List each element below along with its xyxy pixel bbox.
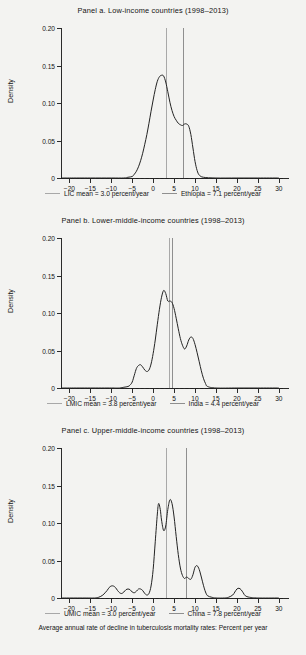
panel-b-y-axis-label: Density (6, 289, 15, 313)
x-tick-mark (174, 389, 175, 393)
x-tick-label: 10 (191, 185, 198, 192)
x-tick-label: −5 (128, 185, 136, 192)
x-tick-label: 5 (172, 185, 176, 192)
x-tick-mark (153, 599, 154, 603)
x-tick-mark (195, 389, 196, 393)
x-tick-mark (258, 389, 259, 393)
y-tick-mark (57, 448, 61, 449)
y-tick-label: 0.05 (42, 557, 55, 564)
x-tick-label: 30 (275, 185, 282, 192)
x-tick-mark (195, 599, 196, 603)
x-tick-mark (279, 599, 280, 603)
x-tick-label: 25 (254, 395, 261, 402)
panel-a: Panel a. Low-income countries (1998–2013… (0, 0, 306, 210)
x-tick-mark (237, 179, 238, 183)
x-tick-label: 15 (212, 395, 219, 402)
y-tick-label: 0 (51, 385, 55, 392)
x-tick-label: −10 (106, 395, 117, 402)
x-tick-label: −10 (106, 185, 117, 192)
y-tick-label: 0.15 (42, 62, 55, 69)
x-tick-mark (279, 179, 280, 183)
x-tick-label: 15 (212, 605, 219, 612)
panel-b-plot-area (61, 238, 283, 388)
y-tick-label: 0.20 (42, 25, 55, 32)
y-tick-mark (57, 238, 61, 239)
density-curve (61, 448, 283, 598)
x-tick-mark (279, 389, 280, 393)
y-tick-label: 0 (51, 595, 55, 602)
y-tick-label: 0.05 (42, 137, 55, 144)
x-tick-mark (69, 179, 70, 183)
legend-swatch-country (170, 403, 185, 404)
x-tick-mark (153, 179, 154, 183)
y-tick-mark (57, 313, 61, 314)
y-tick-label: 0.10 (42, 100, 55, 107)
y-tick-mark (57, 178, 61, 179)
y-tick-mark (57, 103, 61, 104)
x-tick-mark (90, 179, 91, 183)
x-tick-label: 15 (212, 185, 219, 192)
legend-swatch-mean (45, 193, 60, 194)
x-tick-label: −20 (64, 605, 75, 612)
x-tick-label: 5 (172, 605, 176, 612)
x-tick-label: 20 (233, 605, 240, 612)
x-tick-mark (132, 599, 133, 603)
x-tick-label: −20 (64, 185, 75, 192)
panel-a-y-axis-label: Density (6, 79, 15, 103)
legend-item-mean: UMIC mean = 3.0 percent/year (45, 610, 156, 617)
x-tick-label: 10 (191, 605, 198, 612)
y-tick-label: 0.10 (42, 520, 55, 527)
x-tick-mark (111, 179, 112, 183)
panel-b-title: Panel b. Lower-middle-income countries (… (0, 216, 306, 225)
x-tick-label: −5 (128, 395, 136, 402)
x-tick-label: 5 (172, 395, 176, 402)
y-tick-mark (57, 486, 61, 487)
x-tick-mark (111, 599, 112, 603)
legend-swatch-mean (45, 613, 60, 614)
density-curve (61, 238, 283, 388)
x-tick-mark (216, 599, 217, 603)
x-tick-label: 20 (233, 185, 240, 192)
y-tick-mark (57, 66, 61, 67)
x-tick-label: −15 (85, 605, 96, 612)
y-tick-label: 0.20 (42, 445, 55, 452)
x-tick-mark (216, 179, 217, 183)
legend-swatch-mean (47, 403, 62, 404)
y-tick-mark (57, 523, 61, 524)
x-tick-label: −10 (106, 605, 117, 612)
y-tick-mark (57, 598, 61, 599)
y-tick-label: 0 (51, 175, 55, 182)
x-tick-mark (69, 599, 70, 603)
y-tick-label: 0.10 (42, 310, 55, 317)
figure-tb-mortality-density: Panel a. Low-income countries (1998–2013… (0, 0, 306, 655)
panel-c-plot-area (61, 448, 283, 598)
y-tick-mark (57, 561, 61, 562)
y-tick-mark (57, 276, 61, 277)
y-tick-label: 0.15 (42, 272, 55, 279)
x-tick-mark (174, 179, 175, 183)
x-tick-label: 25 (254, 185, 261, 192)
panel-a-plot-area (61, 28, 283, 178)
x-tick-mark (90, 389, 91, 393)
x-tick-label: 20 (233, 395, 240, 402)
x-tick-label: 10 (191, 395, 198, 402)
panel-c-y-axis-label: Density (6, 499, 15, 523)
y-tick-mark (57, 351, 61, 352)
x-tick-label: 30 (275, 605, 282, 612)
x-tick-label: −15 (85, 185, 96, 192)
legend-swatch-country (162, 193, 177, 194)
x-tick-label: 30 (275, 395, 282, 402)
panel-c-title: Panel c. Upper-middle-income countries (… (0, 426, 306, 435)
x-tick-label: 0 (151, 605, 155, 612)
x-tick-mark (195, 179, 196, 183)
x-tick-mark (153, 389, 154, 393)
x-tick-label: −15 (85, 395, 96, 402)
x-tick-mark (132, 179, 133, 183)
figure-caption: Average annual rate of decline in tuberc… (0, 624, 306, 631)
y-tick-label: 0.15 (42, 482, 55, 489)
y-tick-label: 0.20 (42, 235, 55, 242)
panel-b: Panel b. Lower-middle-income countries (… (0, 210, 306, 420)
y-tick-mark (57, 141, 61, 142)
x-tick-mark (216, 389, 217, 393)
x-tick-mark (237, 599, 238, 603)
